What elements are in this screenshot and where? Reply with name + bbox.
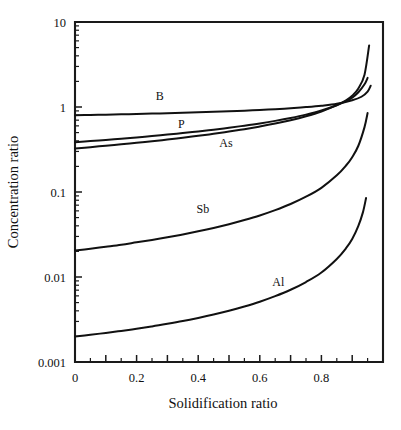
tick-labels: 1010.10.010.00100.20.40.60.8 bbox=[38, 16, 329, 386]
chart-figure: 1010.10.010.00100.20.40.60.8 BPAsSbAl So… bbox=[0, 0, 401, 430]
series-label-sb: Sb bbox=[196, 202, 209, 216]
series-labels: BPAsSbAl bbox=[156, 89, 285, 290]
curve-as bbox=[75, 45, 369, 148]
curve-al bbox=[75, 198, 366, 336]
y-tick-label: 0.1 bbox=[50, 186, 66, 200]
y-axis-title: Concentration ratio bbox=[5, 136, 21, 248]
y-tick-label: 1 bbox=[60, 101, 66, 115]
x-tick-label: 0 bbox=[72, 371, 78, 385]
y-tick-label: 0.001 bbox=[38, 356, 66, 370]
chart-plot-area: 1010.10.010.00100.20.40.60.8 BPAsSbAl So… bbox=[0, 0, 401, 430]
series-label-al: Al bbox=[272, 275, 285, 289]
y-tick-label: 10 bbox=[54, 16, 67, 30]
series-label-as: As bbox=[219, 136, 233, 150]
x-tick-label: 0.4 bbox=[190, 371, 206, 385]
x-tick-label: 0.6 bbox=[252, 371, 268, 385]
curve-b bbox=[75, 86, 371, 116]
series-label-b: B bbox=[156, 89, 164, 103]
data-curves bbox=[75, 45, 371, 336]
x-axis-title: Solidification ratio bbox=[168, 395, 277, 411]
x-tick-label: 0.2 bbox=[129, 371, 145, 385]
axis-ticks bbox=[75, 22, 368, 362]
series-label-p: P bbox=[178, 117, 185, 131]
x-tick-label: 0.8 bbox=[314, 371, 330, 385]
y-tick-label: 0.01 bbox=[44, 271, 66, 285]
